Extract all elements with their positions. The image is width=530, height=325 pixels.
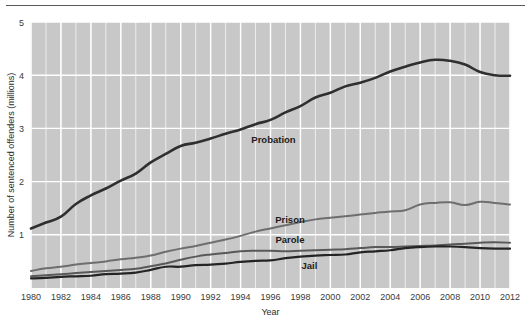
x-tick-label: 2012 [500, 292, 520, 302]
x-tick-label: 2006 [410, 292, 430, 302]
x-tick-label: 1992 [201, 292, 221, 302]
x-axis-ticklabels: 1980198219841986198819901992199419961998… [21, 292, 520, 302]
x-axis-title: Year [261, 307, 279, 317]
chart-figure: ProbationPrisonParoleJail 12345 19801982… [0, 0, 530, 325]
y-tick-label: 2 [19, 177, 24, 187]
x-tick-label: 2010 [470, 292, 490, 302]
x-tick-label: 1998 [290, 292, 310, 302]
series-label-probation: Probation [251, 134, 296, 145]
y-axis-title: Number of sentenced offenders (millions) [6, 73, 16, 237]
x-tick-label: 1984 [81, 292, 101, 302]
y-tick-label: 4 [19, 71, 24, 81]
x-tick-label: 1994 [231, 292, 251, 302]
series-label-parole: Parole [275, 234, 304, 245]
x-tick-label: 1982 [51, 292, 71, 302]
x-tick-label: 2002 [350, 292, 370, 302]
x-tick-label: 2008 [440, 292, 460, 302]
y-axis-ticklabels: 12345 [19, 18, 24, 241]
x-tick-label: 1986 [111, 292, 131, 302]
x-tick-label: 2004 [380, 292, 400, 302]
series-label-prison: Prison [275, 214, 305, 225]
y-tick-label: 5 [19, 18, 24, 28]
y-tick-label: 1 [19, 230, 24, 240]
x-tick-label: 1988 [141, 292, 161, 302]
x-tick-label: 1990 [171, 292, 191, 302]
series-label-jail: Jail [301, 260, 317, 271]
line-chart: ProbationPrisonParoleJail 12345 19801982… [0, 0, 530, 325]
x-tick-label: 2000 [320, 292, 340, 302]
x-tick-label: 1996 [260, 292, 280, 302]
y-tick-label: 3 [19, 124, 24, 134]
x-tick-label: 1980 [21, 292, 41, 302]
